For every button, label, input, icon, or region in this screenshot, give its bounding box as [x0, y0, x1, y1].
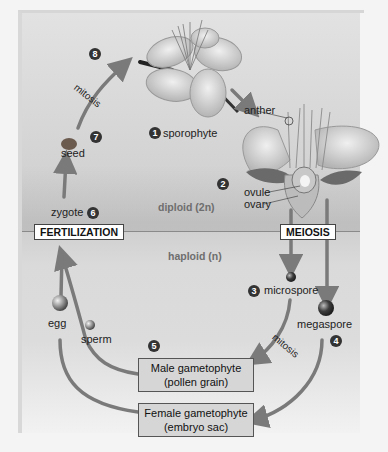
step-badge-5: 5	[148, 340, 160, 352]
meiosis-tag: MEIOSIS	[280, 224, 336, 240]
step-badge-4: 4	[330, 335, 342, 347]
step-badge-7: 7	[90, 131, 102, 143]
female-gametophyte-box: Female gametophyte (embryo sac)	[138, 403, 254, 437]
ovule-label: ovule	[244, 186, 270, 198]
sporophyte-label: sporophyte	[163, 127, 217, 139]
female-gametophyte-subtitle: (embryo sac)	[139, 420, 253, 434]
megaspore-label: megaspore	[297, 318, 352, 330]
sperm-label: sperm	[81, 333, 112, 345]
fertilization-tag: FERTILIZATION	[34, 224, 124, 240]
egg-ball	[52, 295, 68, 311]
female-gametophyte-to-egg-arrow	[60, 340, 138, 412]
male-gametophyte-box: Male gametophyte (pollen grain)	[138, 358, 254, 392]
sperm-ball	[85, 320, 95, 330]
step-badge-1: 1	[149, 127, 161, 139]
diploid-zone-label: diploid (2n)	[158, 201, 215, 213]
step-badge-2: 2	[217, 178, 229, 190]
male-gametophyte-subtitle: (pollen grain)	[139, 375, 253, 389]
microspore-ball	[286, 272, 296, 282]
egg-to-fertilization-arrow	[61, 255, 62, 296]
microspore-label: microspore	[264, 284, 318, 296]
sporophyte-flower-illustration	[140, 20, 245, 117]
zygote-label: zygote	[51, 206, 83, 218]
sperm-to-fertilization-arrow	[62, 255, 138, 374]
haploid-zone-label: haploid (n)	[168, 250, 222, 262]
step-badge-8: 8	[89, 48, 101, 60]
ovary-label: ovary	[244, 198, 271, 210]
seed-label: seed	[61, 147, 85, 159]
step-badge-3: 3	[248, 285, 260, 297]
anther-label: anther	[244, 104, 275, 116]
female-gametophyte-title: Female gametophyte	[139, 406, 253, 420]
egg-label: egg	[48, 317, 66, 329]
male-gametophyte-title: Male gametophyte	[139, 361, 253, 375]
zygote-to-seed-arrow	[64, 160, 66, 197]
megaspore-ball	[318, 300, 334, 316]
step-badge-6: 6	[87, 207, 99, 219]
